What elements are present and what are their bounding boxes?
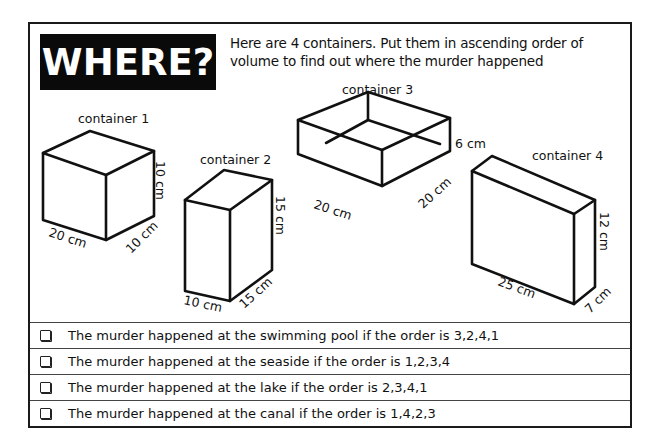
container-1-height: 10 cm <box>153 161 168 200</box>
option-text: The murder happened at the lake if the o… <box>68 380 427 395</box>
option-text: The murder happened at the seaside if th… <box>68 354 450 369</box>
option-text: The murder happened at the swimming pool… <box>68 328 499 343</box>
container-3-box <box>298 92 450 186</box>
container-3-depth: 20 cm <box>415 174 454 211</box>
checkbox-icon[interactable] <box>40 356 51 367</box>
container-4-box <box>472 156 595 304</box>
option-text: The murder happened at the canal if the … <box>68 406 436 421</box>
container-4-label: container 4 <box>532 148 603 163</box>
checkbox-icon[interactable] <box>40 408 51 419</box>
container-3-height: 6 cm <box>455 136 486 151</box>
checkbox-icon[interactable] <box>40 330 51 341</box>
container-2-label: container 2 <box>200 152 271 167</box>
option-seaside[interactable]: The murder happened at the seaside if th… <box>30 348 630 374</box>
option-lake[interactable]: The murder happened at the lake if the o… <box>30 374 630 400</box>
option-swimming-pool[interactable]: The murder happened at the swimming pool… <box>30 322 630 348</box>
container-1-depth: 10 cm <box>123 218 161 256</box>
container-4-depth: 7 cm <box>582 284 615 317</box>
worksheet-frame: WHERE? Here are 4 containers. Put them i… <box>28 22 632 428</box>
container-2-length: 10 cm <box>182 292 223 315</box>
container-4-length: 25 cm <box>496 274 538 301</box>
container-3-label: container 3 <box>342 82 413 97</box>
option-canal[interactable]: The murder happened at the canal if the … <box>30 400 630 426</box>
answer-options: The murder happened at the swimming pool… <box>30 322 630 426</box>
container-1-box <box>43 131 154 240</box>
containers-diagram: container 1 20 cm 10 cm 10 cm container … <box>30 24 630 322</box>
container-2-height: 15 cm <box>273 196 288 235</box>
checkbox-icon[interactable] <box>40 382 51 393</box>
container-1-label: container 1 <box>78 111 149 126</box>
container-3-length: 20 cm <box>312 197 354 223</box>
container-4-height: 12 cm <box>597 212 612 251</box>
